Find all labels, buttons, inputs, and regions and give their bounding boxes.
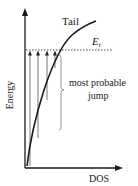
most-probable-jump-brace — [59, 55, 64, 130]
trap-level-subscript: t — [99, 41, 102, 49]
dos-tail-curve — [27, 21, 96, 166]
annotation-line-1: most probable — [69, 77, 126, 88]
dos-energy-diagram: Tail Et most probable jump Energy DOS — [0, 0, 138, 186]
y-axis-label: Energy — [4, 81, 15, 110]
curve-label-tail: Tail — [62, 15, 79, 27]
trap-level-label: Et — [91, 35, 102, 49]
annotation-line-2: jump — [87, 90, 109, 101]
x-axis-label: DOS — [89, 173, 109, 184]
